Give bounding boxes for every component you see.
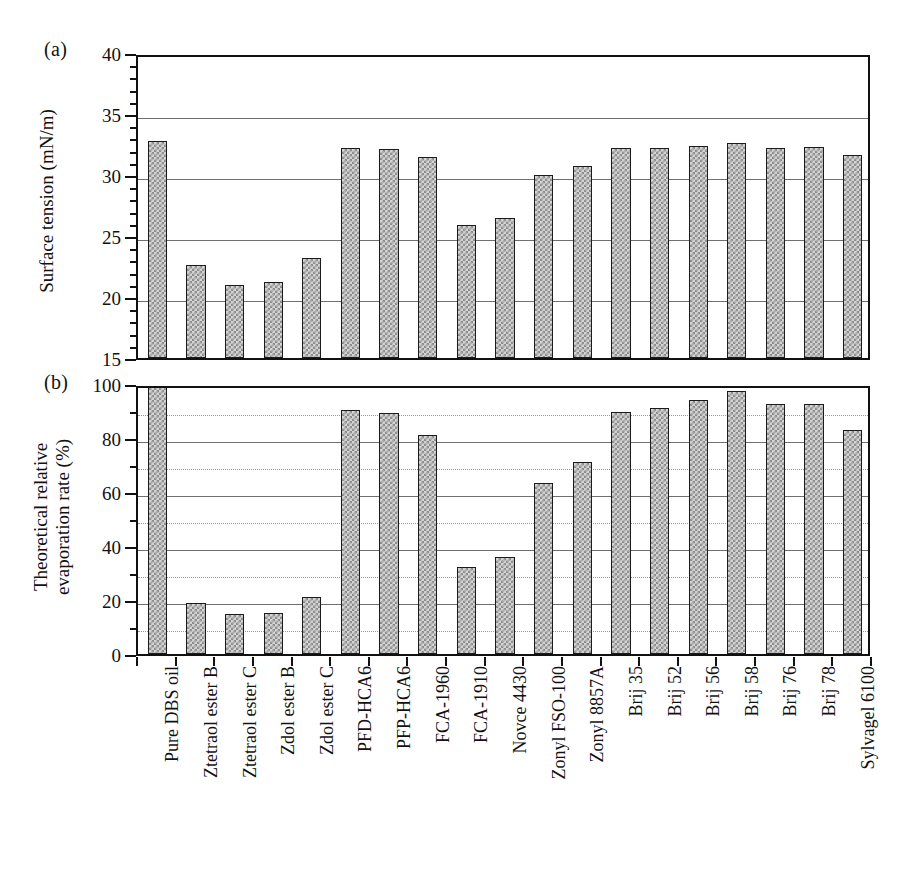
x-tick (831, 657, 833, 666)
y-axis-title-b-line1: Theoretical relative (30, 443, 51, 591)
x-category-label-4: Zdol ester C (317, 666, 338, 755)
bar-b-6 (379, 413, 398, 654)
bar-a-1 (186, 265, 205, 358)
bar-b-13 (650, 408, 669, 654)
x-category-label-9: Novce 4430 (510, 666, 531, 753)
bar-a-11 (573, 166, 592, 358)
bar-a-5 (341, 148, 360, 358)
bar-b-5 (341, 410, 360, 654)
bar-b-1 (186, 603, 205, 654)
bar-a-0 (148, 141, 167, 358)
x-tick (213, 657, 215, 666)
bar-series-a (138, 57, 868, 358)
bar-b-10 (534, 483, 553, 654)
y-tick-major (125, 54, 136, 56)
y-tick-major (125, 359, 136, 361)
bar-b-11 (573, 462, 592, 654)
x-tick (870, 657, 872, 666)
bar-a-3 (264, 282, 283, 358)
bar-b-18 (843, 430, 862, 654)
y-axis-ticklabels-b: 020406080100 (70, 386, 130, 656)
bar-a-9 (495, 218, 514, 358)
y-tick-major (125, 439, 136, 441)
y-tick-major (125, 547, 136, 549)
bar-a-8 (457, 225, 476, 358)
y-tick-major (125, 298, 136, 300)
bar-a-6 (379, 149, 398, 358)
x-category-label-8: FCA-1910 (471, 666, 492, 743)
x-category-label-18: Sylvagel 6100 (858, 666, 879, 770)
bar-a-2 (225, 285, 244, 358)
bar-b-8 (457, 567, 476, 654)
x-tick (136, 657, 138, 666)
x-tick (484, 657, 486, 666)
x-tick (406, 657, 408, 666)
x-category-label-13: Brij 52 (665, 666, 686, 717)
bar-b-12 (611, 412, 630, 654)
x-tick (561, 657, 563, 666)
bar-a-12 (611, 148, 630, 358)
x-tick (715, 657, 717, 666)
x-tick (638, 657, 640, 666)
y-tick-major (125, 115, 136, 117)
y-axis-ticklabels-a: 152025303540 (70, 55, 130, 360)
x-tick (175, 657, 177, 666)
x-category-label-7: FCA-1960 (433, 666, 454, 743)
bar-a-14 (689, 146, 708, 358)
y-tick-major (125, 601, 136, 603)
x-category-label-14: Brij 56 (703, 666, 724, 717)
x-tick (677, 657, 679, 666)
x-category-label-17: Brij 78 (819, 666, 840, 717)
x-category-label-3: Zdol ester B (278, 666, 299, 755)
bar-b-4 (302, 597, 321, 654)
bar-a-18 (843, 155, 862, 358)
x-category-label-2: Ztetraol ester C (240, 666, 261, 778)
x-tick (600, 657, 602, 666)
x-category-label-0: Pure DBS oil (162, 666, 183, 762)
y-axis-title-a: Surface tension (mN/m) (36, 46, 58, 356)
x-tick (445, 657, 447, 666)
x-tick (754, 657, 756, 666)
bar-b-14 (689, 400, 708, 654)
y-tick-major (125, 385, 136, 387)
x-category-label-10: Zonyl FSO-100 (549, 666, 570, 780)
bar-b-16 (766, 404, 785, 654)
y-axis-title-b: Theoretical relative evaporation rate (%… (30, 372, 75, 662)
x-tick (252, 657, 254, 666)
bar-b-17 (804, 404, 823, 654)
x-category-label-5: PFD-HCA6 (355, 666, 376, 752)
bar-series-b (138, 388, 868, 654)
bar-b-7 (418, 435, 437, 654)
x-category-label-15: Brij 58 (742, 666, 763, 717)
bar-a-7 (418, 157, 437, 358)
x-category-label-11: Zonyl 8857A (587, 666, 608, 763)
x-tick (793, 657, 795, 666)
x-tick (522, 657, 524, 666)
plot-area-b (136, 386, 870, 656)
y-tick-major (125, 237, 136, 239)
x-category-label-16: Brij 76 (780, 666, 801, 717)
bar-b-3 (264, 613, 283, 654)
y-tick-major (125, 655, 136, 657)
plot-area-a (136, 55, 870, 360)
x-category-label-1: Ztetraol ester B (201, 666, 222, 778)
x-tick (291, 657, 293, 666)
figure-container: (a) (b) Surface tension (mN/m) Theoretic… (0, 0, 906, 870)
x-tick (329, 657, 331, 666)
bar-a-15 (727, 143, 746, 358)
x-tick (368, 657, 370, 666)
bar-b-9 (495, 557, 514, 654)
x-category-label-12: Brij 35 (626, 666, 647, 717)
y-tick-major (125, 493, 136, 495)
bar-a-10 (534, 175, 553, 358)
bar-a-13 (650, 148, 669, 358)
x-axis-category-labels: Pure DBS oilZtetraol ester BZtetraol est… (136, 666, 870, 866)
bar-a-17 (804, 147, 823, 358)
bar-a-4 (302, 258, 321, 358)
bar-a-16 (766, 148, 785, 358)
y-tick-major (125, 176, 136, 178)
bar-b-0 (148, 388, 167, 654)
bar-b-15 (727, 391, 746, 654)
x-category-label-6: PFP-HCA6 (394, 666, 415, 749)
bar-b-2 (225, 614, 244, 655)
